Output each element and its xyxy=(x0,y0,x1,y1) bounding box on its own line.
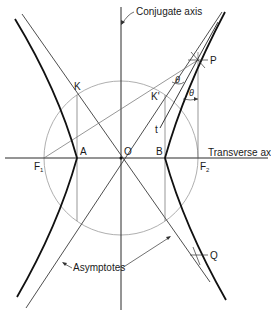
angle-theta-2: θ xyxy=(189,88,194,98)
asymptotes-label: Asymptotes xyxy=(73,262,125,273)
center-point xyxy=(120,157,123,160)
focus-f1-label: F1 xyxy=(34,161,44,173)
tangent-label: t xyxy=(155,124,158,135)
asymptote-line-1 xyxy=(22,14,210,282)
vertex-a-label: A xyxy=(80,146,87,157)
hyperbola-diagram: Conjugate axis Transverse axis Asymptote… xyxy=(0,0,271,316)
transverse-axis-label: Transverse axis xyxy=(208,147,271,158)
asymptotes-leader-right xyxy=(122,237,170,268)
center-label: O xyxy=(124,146,132,157)
tangent-line xyxy=(160,22,218,128)
point-p-label: P xyxy=(210,55,217,66)
conjugate-axis-label: Conjugate axis xyxy=(136,6,202,17)
asymptotes-arrowhead-left xyxy=(62,262,67,266)
vertex-b-label: B xyxy=(156,146,163,157)
point-k-label: K xyxy=(74,81,81,92)
point-q-label: Q xyxy=(210,250,218,261)
point-k-prime-label: K' xyxy=(151,91,160,102)
angle-arrowhead xyxy=(194,97,198,101)
angle-theta-1: θ xyxy=(175,75,180,85)
focus-f2-label: F2 xyxy=(200,161,210,173)
